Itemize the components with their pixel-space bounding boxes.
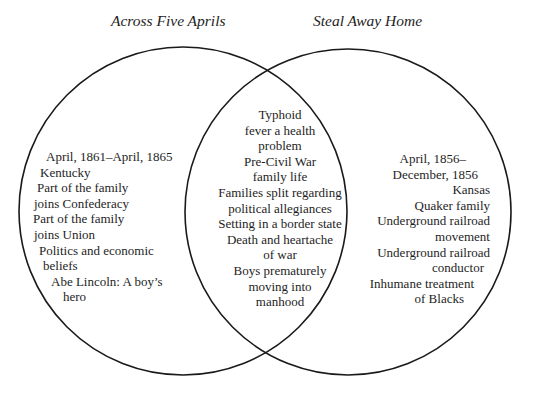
left-item: joins Union bbox=[34, 227, 172, 243]
overlap-item: Typhoid bbox=[200, 107, 360, 123]
right-item: Quaker family bbox=[366, 198, 490, 214]
left-item: Part of the family bbox=[36, 180, 172, 196]
left-item: April, 1861–April, 1865 bbox=[36, 149, 172, 165]
overlap-item: of war bbox=[200, 247, 360, 263]
overlap-item: fever a health bbox=[200, 123, 360, 139]
right-item: April, 1856– bbox=[366, 151, 490, 167]
overlap-item: Death and heartache bbox=[200, 232, 360, 248]
left-item: Politics and economic bbox=[36, 243, 172, 259]
right-item: of Blacks bbox=[366, 291, 490, 307]
left-item: hero bbox=[36, 289, 172, 305]
overlap-item: political allegiances bbox=[200, 201, 360, 217]
right-item: Underground railroad bbox=[366, 245, 490, 261]
overlap-item: Setting in a border state bbox=[200, 216, 360, 232]
overlap-item: Boys prematurely bbox=[200, 263, 360, 279]
overlap-item: family life bbox=[200, 169, 360, 185]
right-item: Underground railroad bbox=[366, 213, 490, 229]
left-item: joins Confederacy bbox=[34, 196, 172, 212]
left-item: Abe Lincoln: A boy’s bbox=[36, 274, 172, 290]
right-item: Inhumane treatment bbox=[366, 276, 490, 292]
overlap-item: manhood bbox=[200, 294, 360, 310]
overlap-item: Families split regarding bbox=[200, 185, 360, 201]
left-only-list: April, 1861–April, 1865 Kentucky Part of… bbox=[36, 149, 172, 305]
right-item: Kansas bbox=[366, 182, 490, 198]
overlap-item: problem bbox=[200, 138, 360, 154]
overlap-item: moving into bbox=[200, 279, 360, 295]
overlap-item: Pre-Civil War bbox=[200, 154, 360, 170]
left-item: Part of the family bbox=[33, 211, 172, 227]
right-item: December, 1856 bbox=[366, 167, 490, 183]
left-item: beliefs bbox=[36, 258, 172, 274]
right-item: movement bbox=[366, 229, 490, 245]
left-item: Kentucky bbox=[36, 165, 172, 181]
right-item: conductor bbox=[366, 260, 490, 276]
right-only-list: April, 1856– December, 1856 Kansas Quake… bbox=[366, 151, 490, 307]
overlap-list: Typhoid fever a health problem Pre-Civil… bbox=[200, 107, 360, 310]
